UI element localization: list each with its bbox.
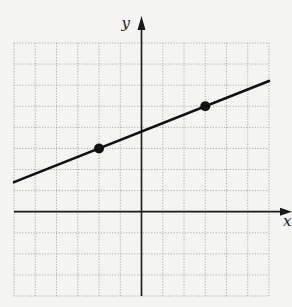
data-point bbox=[200, 101, 210, 111]
y-axis-label: y bbox=[121, 14, 131, 32]
data-point bbox=[94, 143, 104, 153]
x-axis-label: x bbox=[283, 212, 292, 230]
coordinate-plane: x y bbox=[0, 0, 292, 307]
y-axis-arrow-icon bbox=[138, 16, 146, 30]
